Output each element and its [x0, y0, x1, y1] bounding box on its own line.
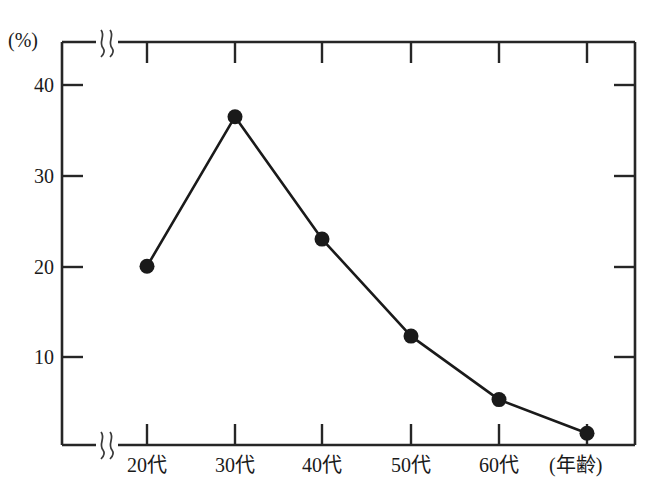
data-point-markers [140, 109, 595, 441]
y-axis-unit-label: (%) [8, 30, 38, 50]
x-tick-label-20s: 20代 [102, 455, 192, 475]
x-tick-label-40s: 40代 [277, 455, 367, 475]
data-point-marker [140, 259, 155, 274]
data-series-line [147, 117, 587, 434]
chart-container: (%) 40 30 20 10 20代 30代 40代 50代 60代 (年齢) [0, 0, 669, 500]
axis-break-top-icon [96, 30, 118, 57]
x-axis-ticks-top [147, 42, 587, 63]
y-tick-label-30: 30 [8, 166, 54, 186]
data-point-marker [404, 329, 419, 344]
line-chart-svg [0, 0, 669, 500]
x-tick-label-30s: 30代 [190, 455, 280, 475]
data-point-marker [228, 109, 243, 124]
y-axis-ticks-left [62, 85, 83, 357]
data-point-marker [580, 426, 595, 441]
plot-frame [62, 42, 635, 445]
y-axis-ticks-right [614, 85, 635, 357]
x-axis-ticks-bottom [147, 424, 587, 445]
x-tick-label-50s: 50代 [366, 455, 456, 475]
x-axis-title: (年齢) [549, 455, 602, 475]
y-tick-label-10: 10 [8, 347, 54, 367]
y-tick-label-40: 40 [8, 75, 54, 95]
data-point-marker [492, 392, 507, 407]
y-tick-label-20: 20 [8, 257, 54, 277]
data-point-marker [315, 232, 330, 247]
x-tick-label-60s: 60代 [454, 455, 544, 475]
